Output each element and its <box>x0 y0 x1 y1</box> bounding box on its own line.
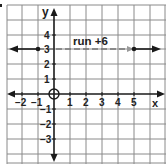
run-annotation: run +6 <box>73 35 108 47</box>
y-tick-label: 1 <box>44 74 50 85</box>
point-neg1-3 <box>36 47 41 52</box>
x-tick-label: −2 <box>15 97 27 108</box>
y-tick-label: 3 <box>44 44 50 55</box>
x-tick-label: 5 <box>131 97 137 108</box>
x-tick-label: 4 <box>115 97 121 108</box>
y-tick-label: 2 <box>44 59 50 70</box>
y-tick-label: −1 <box>40 104 52 115</box>
x-tick-label: 1 <box>67 97 73 108</box>
x-axis-left-arrow-icon <box>7 91 15 98</box>
x-tick-label: 2 <box>83 97 89 108</box>
coordinate-graph: y x run +6 −2 −1 1 2 3 4 5 4 3 2 1 −1 −2… <box>0 0 166 164</box>
x-axis-label: x <box>152 97 159 109</box>
y-tick-label: −3 <box>40 134 52 145</box>
point-5-3 <box>132 47 137 52</box>
y-axis-up-arrow-icon <box>51 8 58 16</box>
line-right-arrow-icon <box>152 46 161 53</box>
y-axis-down-arrow-icon <box>51 154 58 162</box>
y-tick-label: −2 <box>40 119 52 130</box>
line-left-arrow-icon <box>9 46 18 53</box>
x-tick-label: 3 <box>99 97 105 108</box>
y-tick-label: 4 <box>44 30 50 41</box>
bullet-marker <box>0 4 2 7</box>
grid <box>7 5 166 164</box>
x-axis-right-arrow-icon <box>157 91 165 98</box>
y-axis-label: y <box>42 5 49 19</box>
